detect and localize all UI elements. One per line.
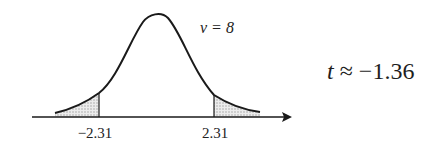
right-critical-label: 2.31 — [202, 125, 228, 141]
nu-label: ν = 8 — [200, 19, 234, 36]
result-relation: ≈ — [340, 58, 353, 84]
result-value: −1.36 — [359, 58, 415, 84]
result-variable: t — [327, 58, 334, 84]
left-critical-label: −2.31 — [78, 125, 113, 141]
test-statistic-result: t ≈ −1.36 — [327, 58, 414, 85]
